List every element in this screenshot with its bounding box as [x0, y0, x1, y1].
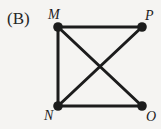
- vertex-n: [53, 101, 63, 111]
- vertex-label-n: N: [44, 109, 53, 123]
- figure-container: (B) M P N O: [0, 0, 161, 129]
- vertex-m: [53, 22, 63, 32]
- part-label: (B): [7, 10, 30, 27]
- vertex-label-o: O: [146, 110, 156, 124]
- vertex-p: [137, 22, 147, 32]
- vertex-label-p: P: [145, 9, 154, 23]
- vertex-label-m: M: [48, 8, 60, 22]
- edge-group: [58, 27, 142, 106]
